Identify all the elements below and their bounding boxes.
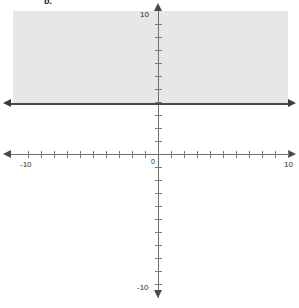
x-axis-max-label: 10	[284, 160, 293, 169]
x-axis-tick	[171, 151, 172, 158]
x-axis-tick	[197, 151, 198, 158]
x-axis-tick	[54, 151, 55, 158]
origin-label: 0	[151, 157, 155, 166]
y-axis-tick	[155, 180, 162, 181]
problem-label: b.	[44, 0, 52, 6]
y-axis-tick	[155, 37, 162, 38]
boundary-line-y-equals-4	[10, 103, 289, 105]
x-axis-tick	[236, 151, 237, 158]
x-axis-left-arrow-icon	[3, 150, 11, 158]
x-axis-tick	[132, 151, 133, 158]
x-axis-min-label: -10	[20, 160, 32, 169]
y-axis-up-arrow-icon	[154, 3, 162, 11]
shaded-solution-region	[13, 11, 288, 103]
x-axis-tick	[262, 151, 263, 158]
y-axis-tick	[155, 128, 162, 129]
x-axis-tick	[41, 151, 42, 158]
y-axis-tick	[155, 232, 162, 233]
y-axis-tick	[155, 115, 162, 116]
x-axis-tick	[28, 151, 29, 158]
x-axis-tick	[119, 151, 120, 158]
y-axis-tick	[155, 284, 162, 285]
y-axis-min-label: -10	[137, 283, 149, 292]
x-axis-tick	[275, 151, 276, 158]
y-axis-tick	[155, 245, 162, 246]
boundary-right-arrow-icon	[288, 99, 296, 107]
x-axis-tick	[145, 151, 146, 158]
y-axis-down-arrow-icon	[154, 290, 162, 298]
y-axis-tick	[155, 219, 162, 220]
x-axis-tick	[210, 151, 211, 158]
y-axis-tick	[155, 271, 162, 272]
y-axis-tick	[155, 193, 162, 194]
y-axis-max-label: 10	[140, 10, 149, 19]
coordinate-graph: b. -10 10 10 -10 0	[0, 0, 299, 308]
y-axis-tick	[155, 141, 162, 142]
boundary-left-arrow-icon	[3, 99, 11, 107]
x-axis-tick	[249, 151, 250, 158]
y-axis-tick	[155, 24, 162, 25]
y-axis-tick	[155, 50, 162, 51]
x-axis-tick	[184, 151, 185, 158]
x-axis-right-arrow-icon	[288, 150, 296, 158]
y-axis-tick	[155, 258, 162, 259]
y-axis-tick	[155, 167, 162, 168]
y-axis-line	[158, 10, 159, 298]
y-axis-tick	[155, 63, 162, 64]
x-axis-line	[10, 154, 289, 155]
x-axis-tick	[106, 151, 107, 158]
x-axis-tick	[288, 151, 289, 158]
y-axis-tick	[155, 89, 162, 90]
x-axis-tick	[223, 151, 224, 158]
x-axis-tick	[80, 151, 81, 158]
y-axis-tick	[155, 76, 162, 77]
x-axis-tick	[93, 151, 94, 158]
y-axis-tick	[155, 206, 162, 207]
x-axis-tick	[67, 151, 68, 158]
